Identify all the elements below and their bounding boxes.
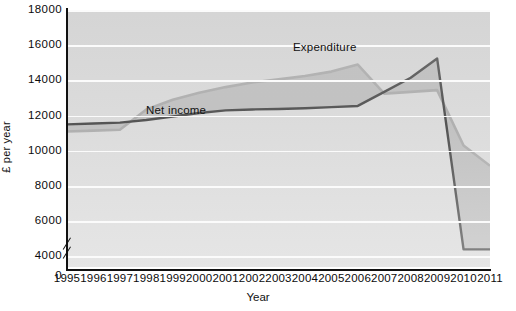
- gridline: [67, 186, 490, 188]
- gridline: [67, 80, 490, 82]
- y-tick-label: 6000: [16, 215, 62, 227]
- x-tick-label: 2011: [473, 272, 507, 284]
- series-label-expenditure: Expenditure: [293, 41, 357, 53]
- gridline: [67, 151, 490, 153]
- x-axis-tick-labels: 1995199619971998199920002001200220032004…: [67, 272, 490, 288]
- gridline: [67, 116, 490, 118]
- y-tick-label: 8000: [16, 180, 62, 192]
- y-axis-line: [66, 8, 68, 270]
- y-tick-label: 4000: [16, 250, 62, 262]
- y-axis-tick-labels: 40006000800010000120001400016000180000: [16, 0, 62, 311]
- gridline: [67, 256, 490, 258]
- y-tick-label: 14000: [16, 74, 62, 86]
- y-tick-label: 12000: [16, 110, 62, 122]
- gridline: [67, 45, 490, 47]
- y-tick-label: 16000: [16, 39, 62, 51]
- x-axis-title: Year: [0, 291, 516, 303]
- plot-area: [67, 10, 490, 267]
- chart-container: £ per year 40006000800010000120001400016…: [0, 0, 516, 311]
- y-tick-label: 10000: [16, 145, 62, 157]
- y-tick-label: 18000: [16, 4, 62, 16]
- series-layer: [67, 10, 490, 267]
- gridline: [67, 10, 490, 12]
- x-axis-line: [66, 269, 491, 271]
- series-label-net-income: Net income: [146, 104, 206, 116]
- gridline: [67, 221, 490, 223]
